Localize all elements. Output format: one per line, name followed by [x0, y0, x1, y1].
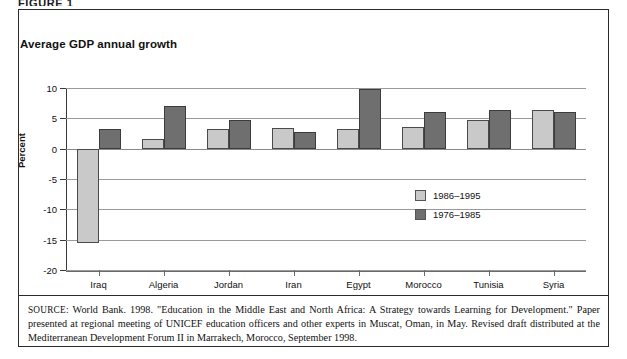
chart-legend: 1986–1995 1976–1985: [415, 190, 481, 228]
x-axis-tick: [359, 270, 360, 276]
bar-jordan-series-2: [229, 120, 251, 149]
legend-item-series-2: 1976–1985: [415, 209, 481, 220]
x-axis-label-morocco: Morocco: [405, 279, 441, 290]
legend-swatch-light: [415, 190, 426, 201]
bar-tunisia-series-1: [467, 120, 489, 149]
gridline: [66, 209, 586, 210]
y-axis-tick-label: -5: [49, 174, 57, 185]
x-axis-tick: [424, 270, 425, 276]
bar-iran-series-2: [294, 132, 316, 148]
legend-swatch-dark: [415, 209, 426, 220]
y-axis-title: Percent: [16, 133, 27, 168]
x-axis-label-tunisia: Tunisia: [473, 279, 503, 290]
y-axis-tick: [60, 270, 66, 271]
bar-egypt-series-2: [359, 89, 381, 148]
gridline: [66, 270, 586, 271]
bar-jordan-series-1: [207, 129, 229, 148]
plot-area: 1050-5-10-15-20 IraqAlgeriaJordanIranEgy…: [66, 88, 586, 270]
figure-number-label: FIGURE 1: [18, 0, 74, 6]
y-axis-tick-label: -15: [43, 234, 57, 245]
gridline: [66, 149, 586, 150]
source-tag: SOURCE:: [28, 305, 69, 315]
gridline: [66, 179, 586, 180]
legend-label-series-2: 1976–1985: [433, 209, 481, 220]
note-separator: [19, 295, 608, 296]
y-axis-tick-label: 5: [52, 113, 57, 124]
x-axis-tick: [294, 270, 295, 276]
bar-morocco-series-2: [424, 112, 446, 149]
x-axis-label-iraq: Iraq: [90, 279, 106, 290]
y-axis-tick-label: -20: [43, 265, 57, 276]
y-axis-tick-label: 0: [52, 143, 57, 154]
bar-iran-series-1: [272, 128, 294, 149]
x-axis-tick: [554, 270, 555, 276]
y-axis-tick: [60, 118, 66, 119]
bar-iraq-series-1: [77, 149, 99, 244]
x-axis-label-algeria: Algeria: [149, 279, 179, 290]
legend-item-series-1: 1986–1995: [415, 190, 481, 201]
legend-label-series-1: 1986–1995: [433, 190, 481, 201]
bar-algeria-series-2: [164, 106, 186, 148]
y-axis-tick-label: 10: [46, 83, 57, 94]
y-axis-tick: [60, 149, 66, 150]
x-axis-label-egypt: Egypt: [346, 279, 370, 290]
bar-tunisia-series-2: [489, 110, 511, 149]
y-axis-tick: [60, 179, 66, 180]
source-note: SOURCE: World Bank. 1998. "Education in …: [28, 303, 600, 344]
y-axis-tick: [60, 209, 66, 210]
bar-morocco-series-1: [402, 127, 424, 149]
x-axis-label-jordan: Jordan: [214, 279, 243, 290]
gridline: [66, 240, 586, 241]
bar-syria-series-2: [554, 112, 576, 148]
x-axis-label-syria: Syria: [543, 279, 565, 290]
bar-algeria-series-1: [142, 139, 164, 149]
x-axis-tick: [229, 270, 230, 276]
source-text: World Bank. 1998. "Education in the Midd…: [28, 304, 600, 343]
y-axis-tick-label: -10: [43, 204, 57, 215]
x-axis-label-iran: Iran: [285, 279, 301, 290]
y-axis-tick: [60, 88, 66, 89]
bar-egypt-series-1: [337, 129, 359, 149]
x-axis-tick: [489, 270, 490, 276]
bar-iraq-series-2: [99, 129, 121, 149]
y-axis-tick: [60, 240, 66, 241]
x-axis-tick: [99, 270, 100, 276]
x-axis-tick: [164, 270, 165, 276]
chart-title: Average GDP annual growth: [20, 38, 177, 50]
bar-syria-series-1: [532, 110, 554, 148]
gridline: [66, 88, 586, 89]
